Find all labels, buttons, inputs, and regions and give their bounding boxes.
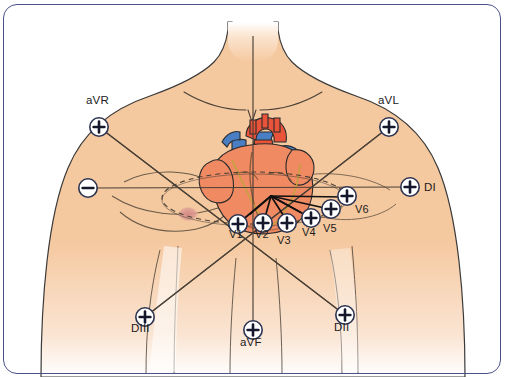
label-aVL: aVL	[378, 94, 399, 106]
label-V2: V2	[255, 228, 269, 240]
label-V1: V1	[229, 228, 243, 240]
electrode-DI[interactable]	[401, 178, 419, 196]
label-V6: V6	[355, 203, 369, 215]
electrode-V5[interactable]	[322, 200, 340, 218]
label-V4: V4	[302, 226, 316, 238]
electrode-aVR[interactable]	[90, 118, 108, 136]
ecg-lead-placement-figure: aVR aVL DI DIII aVF DII V1 V2 V3 V4 V5 V…	[0, 0, 506, 377]
label-DII: DII	[334, 321, 349, 333]
label-DIII: DIII	[131, 322, 150, 334]
electrode-V3[interactable]	[278, 214, 296, 232]
electrode-V4[interactable]	[302, 209, 320, 227]
label-aVR: aVR	[86, 94, 109, 106]
label-DI: DI	[424, 181, 436, 193]
electrode-neg[interactable]	[79, 179, 97, 197]
electrode-V6[interactable]	[338, 187, 356, 205]
label-aVF: aVF	[240, 336, 262, 348]
label-V3: V3	[277, 234, 291, 246]
label-V5: V5	[323, 222, 337, 234]
electrode-aVL[interactable]	[380, 118, 398, 136]
